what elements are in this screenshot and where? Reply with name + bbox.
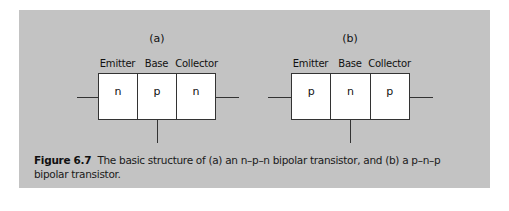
label-collector: Collector	[367, 58, 412, 69]
base-lead	[157, 120, 158, 143]
collector-lead	[216, 97, 239, 98]
collector-lead	[410, 97, 433, 98]
region-base: n	[330, 74, 369, 119]
figure-number: Figure 6.7	[34, 154, 91, 166]
region-base: p	[137, 74, 176, 119]
transistor-body-npn: n p n	[98, 73, 216, 120]
panel-b-title: (b)	[330, 32, 370, 45]
label-emitter: Emitter	[291, 58, 330, 69]
base-lead	[350, 120, 351, 143]
caption-text: The basic structure of (a) an n–p–n bipo…	[34, 154, 440, 180]
label-emitter: Emitter	[98, 58, 137, 69]
region-collector: p	[370, 74, 409, 119]
label-collector: Collector	[174, 58, 219, 69]
region-emitter: n	[99, 74, 137, 119]
transistor-body-pnp: p n p	[291, 73, 410, 120]
label-base: Base	[330, 58, 370, 69]
label-base: Base	[137, 58, 176, 69]
emitter-lead	[268, 97, 291, 98]
figure-caption: Figure 6.7 The basic structure of (a) an…	[34, 153, 474, 181]
panel-a-title: (a)	[137, 32, 177, 45]
emitter-lead	[77, 97, 98, 98]
region-emitter: p	[292, 74, 330, 119]
region-collector: n	[176, 74, 215, 119]
